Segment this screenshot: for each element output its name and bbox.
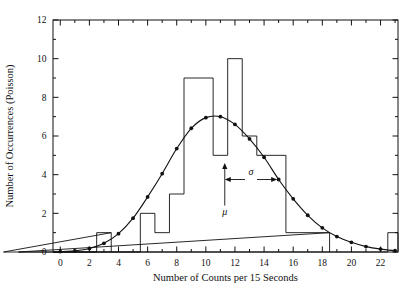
x-tick-label: 18	[318, 258, 328, 268]
histogram-outline	[4, 59, 399, 252]
curve-data-point	[160, 172, 164, 176]
mu-label: μ	[221, 206, 227, 217]
y-tick-label: 12	[37, 15, 47, 25]
x-tick-label: 0	[58, 258, 63, 268]
curve-data-point	[204, 116, 208, 120]
sigma-arrow-head-right	[271, 177, 277, 182]
poisson-histogram-figure: μσ 0246810121416182022024681012Number of…	[0, 0, 413, 291]
curve-data-point	[306, 213, 310, 217]
y-tick-label: 0	[42, 247, 47, 257]
x-tick-label: 2	[87, 258, 92, 268]
x-tick-label: 4	[116, 258, 121, 268]
curve-data-point	[262, 155, 266, 159]
y-tick-label: 4	[42, 170, 47, 180]
curve-data-point	[102, 241, 106, 245]
curve-data-point	[87, 247, 91, 251]
x-tick-label: 14	[259, 258, 269, 268]
histogram-layer	[4, 59, 399, 252]
sigma-arrow-head-left	[225, 177, 231, 182]
curve-data-point	[117, 232, 121, 236]
y-tick-label: 10	[37, 54, 47, 64]
curve-data-point	[291, 197, 295, 201]
curve-data-point	[219, 115, 223, 119]
x-tick-label: 6	[145, 258, 150, 268]
curve-data-point	[277, 178, 281, 182]
y-tick-label: 8	[42, 93, 47, 103]
x-tick-label: 16	[288, 258, 298, 268]
curve-data-point	[73, 249, 77, 253]
curve-data-point	[146, 195, 150, 199]
curve-data-point	[393, 249, 397, 253]
y-tick-label: 6	[42, 131, 47, 141]
curve-data-point	[364, 245, 368, 249]
annotation-layer: μσ	[221, 163, 277, 217]
x-tick-label: 22	[376, 258, 386, 268]
y-axis-title: Number of Occurrences (Poisson)	[4, 64, 16, 208]
x-axis-title: Number of Counts per 15 Seconds	[153, 272, 298, 283]
curve-data-point	[233, 123, 237, 127]
curve-data-point	[189, 126, 193, 130]
y-tick-label: 2	[42, 209, 47, 219]
curve-data-point	[248, 137, 252, 141]
x-tick-label: 10	[201, 258, 211, 268]
curve-data-point	[335, 235, 339, 239]
mu-arrow-head	[222, 163, 227, 169]
chart-canvas: μσ 0246810121416182022024681012Number of…	[0, 0, 413, 291]
x-tick-label: 8	[174, 258, 179, 268]
curve-data-point	[131, 216, 135, 220]
curve-data-point	[379, 247, 383, 251]
x-tick-label: 20	[347, 258, 357, 268]
curve-data-point	[58, 250, 62, 254]
curve-data-point	[320, 226, 324, 230]
label-layer: 0246810121416182022024681012Number of Co…	[4, 15, 386, 283]
x-tick-label: 12	[230, 258, 240, 268]
curve-data-point	[350, 240, 354, 244]
curve-data-point	[175, 147, 179, 151]
